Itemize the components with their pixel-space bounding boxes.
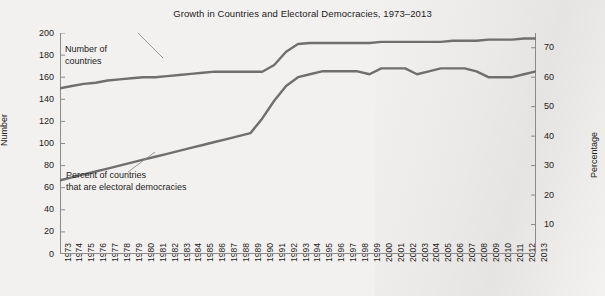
annotation-percent-electoral-democracies: Percent of countriesthat are electoral d… bbox=[66, 170, 187, 193]
annotation-line: Percent of countries bbox=[66, 170, 187, 182]
annotation-line: Number of bbox=[65, 44, 107, 56]
annotation-number-of-countries: Number ofcountries bbox=[65, 44, 107, 67]
y-tick-label-right: 20 bbox=[544, 191, 568, 200]
chart-canvas bbox=[60, 33, 536, 254]
y-tick-label-left: 0 bbox=[24, 250, 54, 259]
y-tick-label-right: 60 bbox=[544, 73, 568, 82]
y-tick-label-left: 160 bbox=[24, 73, 54, 82]
y-axis-left-title: Number bbox=[0, 114, 9, 146]
x-tick-label: 2013 bbox=[540, 243, 548, 262]
y-tick-label-left: 120 bbox=[24, 117, 54, 126]
annotation-line: that are electoral democracies bbox=[66, 182, 187, 194]
series-line bbox=[60, 68, 536, 180]
y-tick-label-left: 40 bbox=[24, 205, 54, 214]
y-tick-label-right: 10 bbox=[544, 220, 568, 229]
y-tick-label-left: 60 bbox=[24, 183, 54, 192]
y-axis-right-title: Percentage bbox=[589, 132, 599, 178]
chart-title: Growth in Countries and Electoral Democr… bbox=[0, 8, 605, 19]
y-tick-label-left: 200 bbox=[24, 29, 54, 38]
y-tick-label-right: 70 bbox=[544, 43, 568, 52]
y-tick-label-left: 20 bbox=[24, 227, 54, 236]
y-tick-label-right: 50 bbox=[544, 102, 568, 111]
y-tick-label-left: 180 bbox=[24, 51, 54, 60]
y-tick-label-right: 40 bbox=[544, 132, 568, 141]
series-line bbox=[60, 39, 536, 89]
y-tick-label-left: 100 bbox=[24, 139, 54, 148]
annotation-leader-line bbox=[138, 33, 163, 58]
y-tick-label-right: 30 bbox=[544, 161, 568, 170]
y-tick-label-left: 80 bbox=[24, 161, 54, 170]
annotation-line: countries bbox=[65, 56, 107, 68]
y-tick-label-left: 140 bbox=[24, 95, 54, 104]
plot-area bbox=[60, 33, 536, 254]
